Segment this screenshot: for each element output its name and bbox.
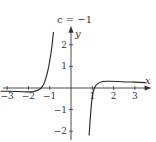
chart-title: c = −1 (57, 14, 92, 25)
y-axis-arrow (69, 26, 74, 33)
x-tick-label: 3 (132, 91, 138, 101)
curve-left-branch (1, 32, 54, 92)
x-tick-label: −3 (0, 91, 14, 101)
x-tick-label: −1 (43, 91, 56, 101)
x-axis-label: x (145, 75, 151, 86)
y-axis-label: y (74, 28, 81, 39)
y-tick-label: −1 (54, 105, 67, 115)
x-tick-label: 2 (111, 91, 117, 101)
y-tick-label: −2 (54, 126, 67, 136)
curves (1, 32, 146, 136)
axes (3, 26, 152, 140)
y-tick-label: 2 (61, 40, 67, 50)
y-tick-label: 1 (61, 61, 67, 71)
x-tick-label: −2 (22, 91, 35, 101)
x-axis-arrow (145, 86, 152, 91)
curve-right-branch (89, 81, 145, 135)
chart: −3−2−1123−2−112 c = −1 x y (0, 0, 156, 142)
